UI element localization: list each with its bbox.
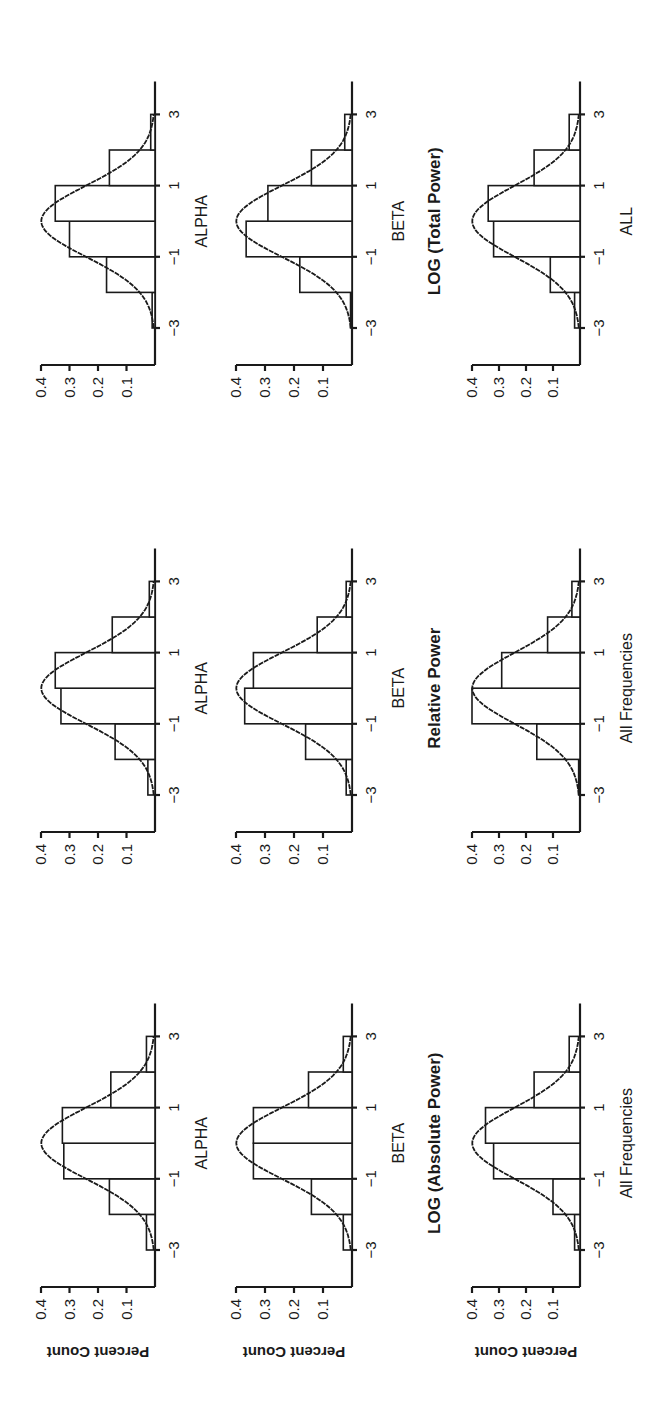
y-tick-label: 0.4	[463, 844, 480, 865]
histogram-bar	[246, 221, 352, 257]
histogram-bar	[553, 1179, 580, 1215]
x-tick-label: 1	[165, 1103, 182, 1111]
x-tick-label: −1	[165, 248, 182, 265]
histogram-bar	[317, 617, 352, 653]
histogram-bar	[253, 653, 352, 689]
x-axis-label: BETA	[390, 668, 407, 709]
x-tick-label: −3	[362, 786, 379, 803]
y-tick-label: 0.2	[89, 844, 106, 865]
histogram-panel-r2c2: 0.10.20.30.4−3−113BETA	[227, 548, 407, 864]
histogram-bar	[351, 292, 352, 328]
histogram-bar	[548, 617, 580, 653]
histogram-bar	[550, 257, 580, 293]
histogram-bar	[107, 257, 155, 293]
x-axis-label: BETA	[390, 201, 407, 242]
histogram-bar	[148, 759, 155, 795]
y-tick-label: 0.2	[285, 377, 302, 398]
x-tick-label: −1	[165, 715, 182, 732]
histogram-panel-r3c2: 0.10.20.30.4−3−113All FrequenciesRelativ…	[425, 548, 635, 864]
x-tick-label: 1	[362, 181, 379, 189]
x-tick-label: −1	[590, 248, 607, 265]
x-tick-label: −3	[165, 786, 182, 803]
histogram-bar	[253, 1143, 352, 1179]
panel-title: LOG (Absolute Power)	[425, 1053, 444, 1234]
histogram-bar	[109, 1179, 155, 1215]
x-tick-label: −3	[362, 319, 379, 336]
x-tick-label: 1	[362, 1103, 379, 1111]
histogram-bar	[55, 653, 155, 689]
x-tick-label: 3	[590, 110, 607, 118]
histogram-bar	[306, 724, 352, 760]
histogram-bar	[486, 1108, 581, 1144]
x-tick-label: −3	[165, 319, 182, 336]
histogram-bar	[146, 1214, 155, 1250]
y-tick-label: 0.3	[256, 377, 273, 398]
x-axis-label: All Frequencies	[618, 1088, 635, 1198]
x-tick-label: 1	[590, 181, 607, 189]
panel-title: LOG (Total Power)	[425, 147, 444, 295]
y-tick-label: 0.1	[314, 377, 331, 398]
y-tick-label: 0.2	[285, 844, 302, 865]
x-tick-label: 3	[590, 577, 607, 585]
histogram-bar	[472, 688, 580, 724]
x-tick-label: 1	[362, 648, 379, 656]
y-tick-label: 0.1	[544, 377, 561, 398]
y-tick-label: 0.2	[517, 377, 534, 398]
x-tick-label: 1	[165, 181, 182, 189]
histogram-grid-figure: 0.10.20.30.4−3−113ALPHAPercent Count0.10…	[0, 0, 668, 1415]
panel-title: Relative Power	[425, 627, 444, 748]
y-tick-label: 0.2	[89, 1299, 106, 1320]
histogram-panel-r3c1: 0.10.20.30.4−3−113All FrequenciesLOG (Ab…	[425, 1003, 635, 1361]
histogram-bar	[502, 653, 580, 689]
y-tick-label: 0.3	[256, 1299, 273, 1320]
y-tick-label: 0.1	[544, 1299, 561, 1320]
y-tick-label: 0.3	[61, 377, 78, 398]
y-tick-label: 0.4	[227, 844, 244, 865]
y-tick-label: 0.3	[490, 377, 507, 398]
y-tick-label: 0.3	[490, 844, 507, 865]
x-tick-label: −3	[362, 1241, 379, 1258]
x-axis-label: ALPHA	[193, 662, 210, 715]
histogram-bar	[152, 292, 155, 328]
histogram-bar	[345, 114, 352, 150]
y-tick-label: 0.3	[61, 1299, 78, 1320]
x-tick-label: −1	[165, 1170, 182, 1187]
y-tick-label: 0.3	[61, 844, 78, 865]
y-tick-label: 0.4	[32, 377, 49, 398]
x-tick-label: 1	[165, 648, 182, 656]
x-tick-label: 3	[165, 1032, 182, 1040]
x-axis-label: BETA	[390, 1123, 407, 1164]
x-tick-label: −1	[362, 248, 379, 265]
x-axis-label: ALL	[618, 207, 635, 236]
x-tick-label: −3	[165, 1241, 182, 1258]
y-tick-label: 0.3	[256, 844, 273, 865]
histogram-bar	[268, 186, 352, 222]
histogram-bar	[253, 1108, 352, 1144]
x-tick-label: −3	[590, 319, 607, 336]
x-axis-label: ALPHA	[193, 1117, 210, 1170]
histogram-bar	[64, 1143, 155, 1179]
histogram-panel-r1c1: 0.10.20.30.4−3−113ALPHAPercent Count	[32, 1003, 210, 1361]
y-axis-label: Percent Count	[243, 1344, 346, 1361]
x-tick-label: 3	[362, 110, 379, 118]
histogram-bar	[300, 257, 352, 293]
histogram-grid-svg: 0.10.20.30.4−3−113ALPHAPercent Count0.10…	[0, 0, 668, 1415]
x-tick-label: −1	[362, 1170, 379, 1187]
y-tick-label: 0.1	[118, 377, 135, 398]
x-tick-label: −3	[590, 786, 607, 803]
y-axis-label: Percent Count	[47, 1344, 150, 1361]
histogram-panel-r1c2: 0.10.20.30.4−3−113ALPHA	[32, 548, 210, 864]
x-tick-label: 3	[165, 110, 182, 118]
histogram-bar	[534, 1072, 580, 1108]
y-tick-label: 0.4	[227, 377, 244, 398]
y-tick-label: 0.4	[463, 377, 480, 398]
x-tick-label: −1	[362, 715, 379, 732]
x-axis-label: All Frequencies	[618, 633, 635, 743]
histogram-bar	[534, 150, 580, 186]
histogram-panel-r3c3: 0.10.20.30.4−3−113ALLLOG (Total Power)	[425, 81, 635, 397]
histogram-panel-r2c3: 0.10.20.30.4−3−113BETA	[227, 81, 407, 397]
x-tick-label: −3	[590, 1241, 607, 1258]
histogram-bar	[537, 724, 580, 760]
y-tick-label: 0.4	[227, 1299, 244, 1320]
y-tick-label: 0.1	[314, 844, 331, 865]
